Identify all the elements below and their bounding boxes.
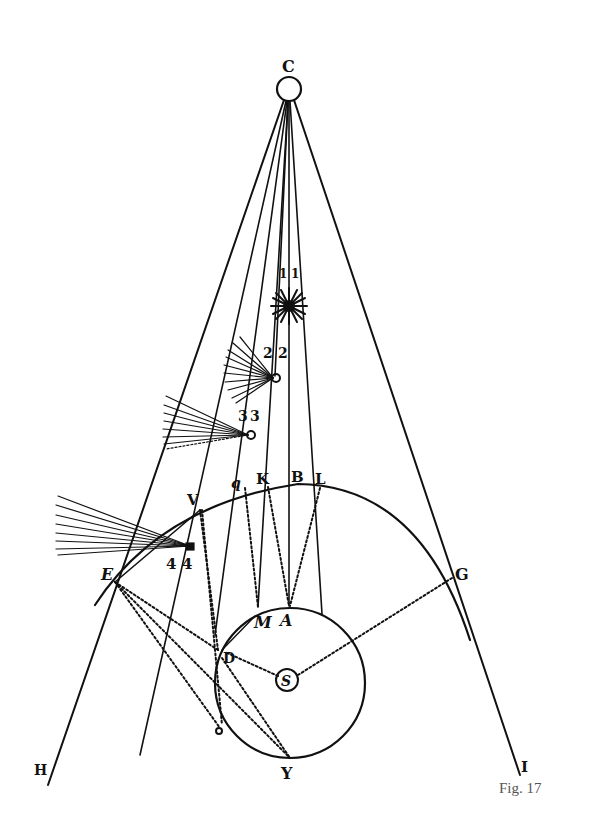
label-m: M [253,613,273,632]
apex-circle-c [277,77,301,101]
dotted-e-o [115,582,220,728]
label-y: Y [280,764,293,783]
label-3b: 3 [250,408,260,424]
figure-caption: Fig. 17 [499,780,542,797]
dotted-l-a [290,488,320,606]
label-1b: 1 [291,267,299,281]
label-q: q [231,475,241,491]
label-4a: 4 [166,555,176,573]
dotted-q-m [245,488,258,607]
line-c-5 [290,101,322,614]
point-o [216,728,222,734]
dotted-k-a [268,487,289,606]
label-2b: 2 [278,345,288,361]
dotted-v-o [202,510,222,725]
line-c-i [294,100,520,775]
label-e: E [100,565,114,584]
label-c: C [282,57,295,76]
label-a: A [278,611,292,630]
label-l: L [315,470,326,488]
label-2a: 2 [263,345,273,361]
comet-4 [56,496,194,555]
label-i: I [521,758,528,776]
label-g: G [455,565,469,584]
line-d-m [222,616,255,650]
label-k: K [256,470,270,488]
label-1a: 1 [279,267,287,281]
line-c-1 [140,101,286,755]
line-c-h [48,100,284,785]
label-h: H [34,762,47,778]
label-v: V [186,491,199,509]
diagram-canvas: C 1 1 2 2 3 3 4 4 V q K B L E G M A D S … [0,0,599,836]
label-s: S [281,673,291,689]
star-body-1 [271,288,307,324]
label-3a: 3 [238,408,248,424]
label-4b: 4 [182,555,192,573]
label-b: B [291,468,304,486]
label-d: D [223,650,235,666]
